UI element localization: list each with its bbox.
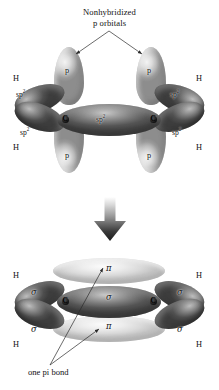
sp2-label-base: sp xyxy=(16,90,23,99)
sp2-label-exponent: 2 xyxy=(177,88,180,94)
sp2-label-exponent: 2 xyxy=(23,88,26,94)
sigma-label-upper-left: σ xyxy=(31,288,37,297)
carbon-atom-label-right: C xyxy=(151,297,156,305)
sp2-label-base: sp xyxy=(20,128,27,137)
sp2-label-lower-left: sp2 xyxy=(20,127,29,137)
pi-bond-caption: one pi bond xyxy=(28,368,69,378)
sp2-label-exponent: 2 xyxy=(179,126,182,132)
hydrogen-label-lower-left: H xyxy=(13,143,19,152)
annotation-line-1: Nonhybridized xyxy=(0,8,219,18)
p-orbital-label-top-right: p xyxy=(147,66,151,75)
sp2-label-base: sp xyxy=(96,115,103,124)
sp2-label-base: sp xyxy=(172,128,179,137)
annotation-line-2: p orbitals xyxy=(0,19,219,29)
sp2-label-lower-right: sp2 xyxy=(172,127,181,137)
hydrogen-label-lower-right: H xyxy=(196,340,202,349)
p-orbital-label-bottom-right: p xyxy=(147,151,151,160)
sp2-label-upper-left: sp2 xyxy=(16,89,25,99)
hydrogen-label-upper-right: H xyxy=(196,271,202,280)
sp2-label-exponent: 2 xyxy=(27,126,30,132)
sp2-label-exponent: 2 xyxy=(103,113,106,119)
sp2-label-center: sp2 xyxy=(96,114,105,124)
sigma-label-upper-right: σ xyxy=(177,288,183,297)
carbon-atom-label-left: C xyxy=(63,115,68,123)
carbon-atom-label-right: C xyxy=(151,115,156,123)
carbon-atom-label-left: C xyxy=(63,297,68,305)
hydrogen-label-lower-right: H xyxy=(196,143,202,152)
sigma-label-lower-right: σ xyxy=(177,325,183,334)
pi-label-top: π xyxy=(106,264,112,273)
hydrogen-label-upper-left: H xyxy=(13,74,19,83)
p-orbital-label-top-left: p xyxy=(65,66,69,75)
orbital-diagram-figure: Nonhybridized p orbitals C C p p p p sp2… xyxy=(0,0,219,390)
sp2-label-upper-right: sp2 xyxy=(170,89,179,99)
sp2-label-base: sp xyxy=(170,90,177,99)
p-orbital-label-bottom-left: p xyxy=(65,151,69,160)
hydrogen-label-lower-left: H xyxy=(13,340,19,349)
hydrogen-label-upper-left: H xyxy=(13,271,19,280)
sigma-label-lower-left: σ xyxy=(31,325,37,334)
hydrogen-label-upper-right: H xyxy=(196,74,202,83)
sigma-label-center: σ xyxy=(106,293,112,302)
pi-label-bottom: π xyxy=(106,322,112,331)
